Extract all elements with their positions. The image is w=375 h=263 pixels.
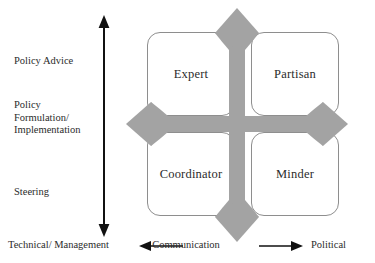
arrow-right-icon [259,238,303,258]
axis-label-political: Political [311,238,346,252]
quadrant-expert-label: Expert [174,67,209,82]
quadrant-matrix: Expert Partisan Coordinator Minder [147,32,339,216]
quadrant-coordinator[interactable]: Coordinator [147,132,235,216]
quadrant-minder[interactable]: Minder [251,132,339,216]
axis-label-technical-management: Technical/ Management [8,238,109,252]
quadrant-expert[interactable]: Expert [147,32,235,116]
axis-tier-policy-advice: Policy Advice [14,55,73,68]
axis-tier-policy-formulation: Policy Formulation/ Implementation [14,99,80,137]
vertical-axis-arrow [95,14,113,238]
quadrant-minder-label: Minder [276,167,314,182]
horizontal-axis: Technical/ Management Communication Poli… [0,238,375,260]
axis-label-communication: Communication [152,238,220,252]
diagram-canvas: Policy Advice Policy Formulation/ Implem… [0,0,375,263]
axis-tier-steering: Steering [14,186,49,199]
quadrant-partisan-label: Partisan [274,67,316,82]
quadrant-partisan[interactable]: Partisan [251,32,339,116]
quadrant-coordinator-label: Coordinator [160,167,223,182]
